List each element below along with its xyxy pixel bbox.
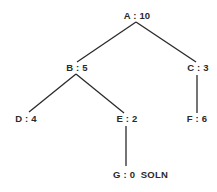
tree-edges [29,22,197,166]
edge-b-e [76,74,124,113]
search-tree-diagram: A : 10 B : 5 C : 3 D : 4 E : 2 F : 6 G :… [0,0,217,192]
node-g-solution-label: G : 0 SOLN [113,169,168,180]
edge-a-b [77,22,136,62]
tree-nodes: A : 10 B : 5 C : 3 D : 4 E : 2 F : 6 G :… [15,10,209,180]
node-c-label: C : 3 [187,62,209,73]
node-a-label: A : 10 [124,10,151,21]
node-f-label: F : 6 [187,113,208,124]
edge-a-c [136,22,196,62]
node-d-label: D : 4 [15,113,37,124]
node-e-label: E : 2 [116,113,137,124]
node-b-label: B : 5 [66,62,88,73]
edge-b-d [29,74,76,112]
